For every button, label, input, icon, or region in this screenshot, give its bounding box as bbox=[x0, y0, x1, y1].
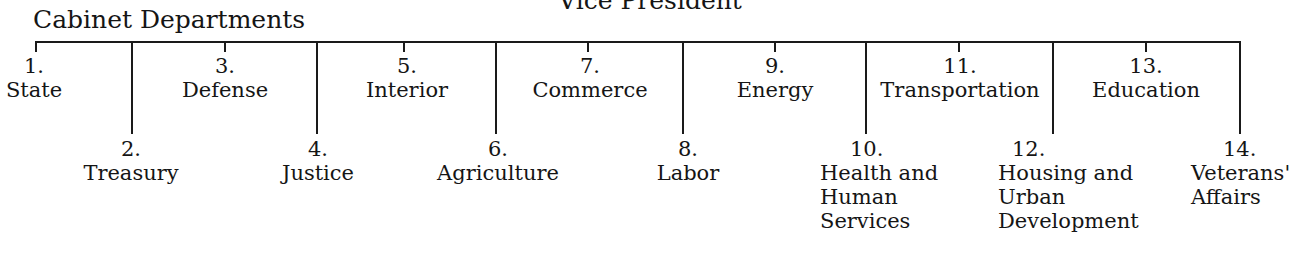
connector-tick-13 bbox=[1145, 41, 1147, 52]
department-name-line: Affairs bbox=[1191, 185, 1290, 209]
department-name: Energy bbox=[737, 78, 814, 102]
department-name-line: Urban bbox=[998, 185, 1139, 209]
department-number: 9. bbox=[737, 54, 814, 78]
connector-drop-4 bbox=[316, 41, 318, 134]
vice-president-label: Vice President bbox=[500, 0, 800, 16]
department-number: 1. bbox=[6, 54, 62, 78]
department-name: Interior bbox=[366, 78, 448, 102]
connector-tick-3 bbox=[224, 41, 226, 52]
department-veterans-affairs: 14. Veterans' Affairs bbox=[1191, 137, 1290, 209]
connector-tick-11 bbox=[958, 41, 960, 52]
department-number: 11. bbox=[880, 54, 1039, 78]
connector-drop-6 bbox=[495, 41, 497, 134]
department-number: 7. bbox=[532, 54, 647, 78]
connector-drop-12 bbox=[1052, 41, 1054, 134]
connector-tick-1 bbox=[35, 41, 37, 52]
department-name-line: Human bbox=[820, 185, 938, 209]
department-agriculture: 6. Agriculture bbox=[437, 137, 559, 185]
department-number: 8. bbox=[657, 137, 720, 161]
department-interior: 5. Interior bbox=[366, 54, 448, 102]
department-name: Education bbox=[1092, 78, 1200, 102]
department-name: Justice bbox=[282, 161, 354, 185]
department-name: Labor bbox=[657, 161, 720, 185]
department-name-line: Development bbox=[998, 209, 1139, 233]
chart-title: Cabinet Departments bbox=[33, 5, 305, 35]
department-name: Agriculture bbox=[437, 161, 559, 185]
department-number: 5. bbox=[366, 54, 448, 78]
department-transportation: 11. Transportation bbox=[880, 54, 1039, 102]
department-energy: 9. Energy bbox=[737, 54, 814, 102]
department-number: 10. bbox=[820, 137, 938, 161]
connector-tick-5 bbox=[403, 41, 405, 52]
department-name-line: Housing and bbox=[998, 161, 1139, 185]
org-chart: Vice President Cabinet Departments 1. St… bbox=[0, 0, 1299, 254]
department-name: Defense bbox=[182, 78, 268, 102]
department-labor: 8. Labor bbox=[657, 137, 720, 185]
department-name-line: Health and bbox=[820, 161, 938, 185]
department-number: 6. bbox=[437, 137, 559, 161]
connector-drop-2 bbox=[131, 41, 133, 134]
department-number: 2. bbox=[83, 137, 178, 161]
department-justice: 4. Justice bbox=[282, 137, 354, 185]
department-commerce: 7. Commerce bbox=[532, 54, 647, 102]
department-number: 12. bbox=[998, 137, 1139, 161]
connector-tick-7 bbox=[587, 41, 589, 52]
department-number: 14. bbox=[1191, 137, 1290, 161]
department-treasury: 2. Treasury bbox=[83, 137, 178, 185]
department-name-line: Services bbox=[820, 209, 938, 233]
department-defense: 3. Defense bbox=[182, 54, 268, 102]
department-number: 13. bbox=[1092, 54, 1200, 78]
department-name: State bbox=[6, 78, 62, 102]
connector-drop-8 bbox=[682, 41, 684, 134]
department-number: 4. bbox=[282, 137, 354, 161]
connector-horizontal bbox=[36, 41, 1241, 43]
department-housing-and-urban-development: 12. Housing and Urban Development bbox=[998, 137, 1139, 233]
department-state: 1. State bbox=[6, 54, 62, 102]
department-name: Treasury bbox=[83, 161, 178, 185]
department-name: Commerce bbox=[532, 78, 647, 102]
department-name: Transportation bbox=[880, 78, 1039, 102]
department-education: 13. Education bbox=[1092, 54, 1200, 102]
department-number: 3. bbox=[182, 54, 268, 78]
department-health-and-human-services: 10. Health and Human Services bbox=[820, 137, 938, 233]
connector-drop-10 bbox=[865, 41, 867, 134]
connector-tick-9 bbox=[774, 41, 776, 52]
department-name-line: Veterans' bbox=[1191, 161, 1290, 185]
connector-drop-14 bbox=[1239, 41, 1241, 134]
